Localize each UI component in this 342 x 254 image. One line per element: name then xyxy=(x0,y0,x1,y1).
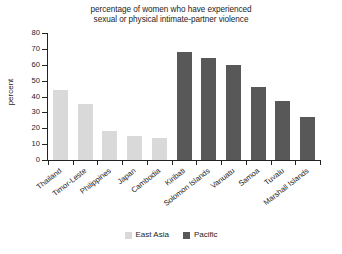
x-axis-tick xyxy=(320,161,321,165)
bar-tuvalu xyxy=(275,101,290,160)
y-axis-tick xyxy=(42,81,47,82)
x-axis-tick xyxy=(196,161,197,165)
x-axis-tick xyxy=(246,161,247,165)
bar-vanuatu xyxy=(226,65,241,160)
legend-swatch-icon xyxy=(183,232,190,239)
bar-thailand xyxy=(53,90,68,160)
bar-philippines xyxy=(102,131,117,160)
x-axis-tick xyxy=(48,161,49,165)
bar-solomon-islands xyxy=(201,58,216,160)
legend-item-pacific[interactable]: Pacific xyxy=(183,231,218,239)
y-axis-tick xyxy=(42,128,47,129)
x-axis-tick xyxy=(271,161,272,165)
y-axis-tick xyxy=(42,160,47,161)
chart-container: percentage of women who have experienced… xyxy=(0,0,342,254)
bar-cambodia xyxy=(152,138,167,160)
bar-samoa xyxy=(251,87,266,160)
y-axis-tick-label: 20 xyxy=(24,124,40,132)
legend-swatch-icon xyxy=(125,232,132,239)
y-axis-tick-label: 60 xyxy=(24,61,40,69)
y-axis-tick-label: 70 xyxy=(24,45,40,53)
legend-label: East Asia xyxy=(136,231,169,239)
y-axis-tick xyxy=(42,49,47,50)
y-axis-tick-label: 10 xyxy=(24,140,40,148)
legend-item-east-asia[interactable]: East Asia xyxy=(125,231,169,239)
plot-area xyxy=(48,33,320,160)
x-axis-tick xyxy=(73,161,74,165)
x-axis-tick xyxy=(97,161,98,165)
x-axis-tick xyxy=(122,161,123,165)
y-axis-tick-label: 50 xyxy=(24,77,40,85)
bar-japan xyxy=(127,136,142,160)
x-axis-tick xyxy=(221,161,222,165)
y-axis-tick xyxy=(42,112,47,113)
y-axis-tick xyxy=(42,33,47,34)
chart-title: percentage of women who have experienced… xyxy=(0,5,342,25)
legend-label: Pacific xyxy=(194,231,218,239)
chart-title-line-2: sexual or physical intimate-partner viol… xyxy=(0,15,342,25)
chart-legend: East AsiaPacific xyxy=(0,231,342,239)
x-axis-tick xyxy=(172,161,173,165)
bar-kiribati xyxy=(177,52,192,160)
y-axis-tick xyxy=(42,97,47,98)
x-axis-tick xyxy=(295,161,296,165)
x-axis-tick xyxy=(147,161,148,165)
y-axis-tick-label: 30 xyxy=(24,108,40,116)
y-axis-tick-label: 40 xyxy=(24,93,40,101)
chart-title-line-1: percentage of women who have experienced xyxy=(0,5,342,15)
x-axis-line xyxy=(47,160,321,161)
bar-timor-leste xyxy=(78,104,93,160)
y-axis-tick xyxy=(42,65,47,66)
bar-marshall-islands xyxy=(300,117,315,160)
y-axis-tick-label: 0 xyxy=(24,156,40,164)
y-axis-tick-label: 80 xyxy=(24,29,40,37)
y-axis-title: percent xyxy=(7,62,15,122)
y-axis-tick xyxy=(42,144,47,145)
